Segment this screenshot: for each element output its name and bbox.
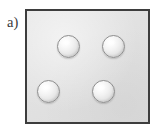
sphere-highlight bbox=[62, 39, 70, 46]
sample-box bbox=[25, 9, 150, 124]
sphere-top-right bbox=[102, 35, 125, 58]
box-surface bbox=[27, 11, 148, 122]
panel-label: a) bbox=[7, 12, 27, 32]
sphere-top-left bbox=[57, 35, 80, 58]
sphere-highlight bbox=[42, 84, 50, 91]
figure-root: a) bbox=[0, 0, 163, 137]
sphere-bottom-left bbox=[37, 80, 60, 103]
sphere-bottom-right bbox=[92, 80, 115, 103]
sphere-highlight bbox=[107, 39, 115, 46]
sphere-highlight bbox=[97, 84, 105, 91]
